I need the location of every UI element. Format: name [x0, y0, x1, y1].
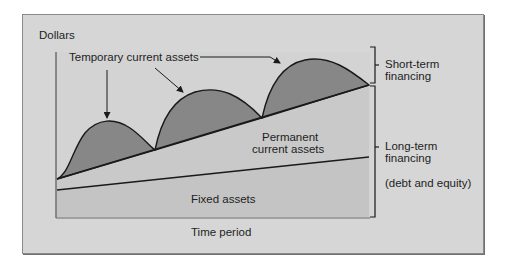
fixed-assets-label: Fixed assets: [191, 193, 256, 206]
long-term-bracket: [370, 86, 375, 217]
x-axis-label: Time period: [191, 226, 251, 239]
permanent-current-assets-label-2: current assets: [252, 143, 324, 156]
temporary-current-assets-label: Temporary current assets: [69, 51, 199, 64]
long-term-note: (debt and equity): [385, 177, 471, 190]
financing-diagram: [0, 0, 506, 270]
y-axis-label: Dollars: [39, 29, 75, 42]
short-term-bracket: [370, 47, 375, 83]
long-term-label-2: financing: [385, 152, 431, 165]
short-term-label-2: financing: [385, 70, 431, 83]
